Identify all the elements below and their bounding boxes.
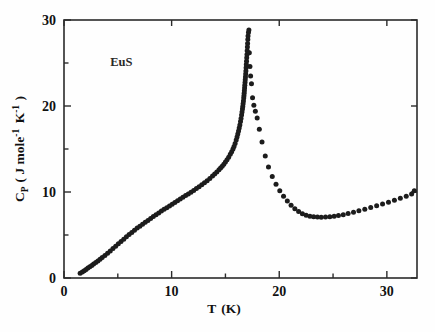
data-point <box>281 194 286 199</box>
y-axis-subscript: P <box>20 186 30 192</box>
data-point <box>270 174 275 179</box>
x-tick-label: 10 <box>165 284 179 299</box>
figure-container: 01020300102030 T(K) CP( J mole-1 K-1 ) E… <box>0 0 435 332</box>
data-point <box>341 212 346 217</box>
data-point <box>380 202 385 207</box>
data-point <box>398 196 403 201</box>
data-point <box>255 116 260 121</box>
sample-label-annotation: EuS <box>110 55 132 69</box>
y-tick-label: 20 <box>42 99 56 114</box>
data-point <box>257 127 262 132</box>
y-axis-title: CP( J mole-1 K-1 ) <box>11 96 30 202</box>
data-point <box>247 50 252 55</box>
data-point <box>374 203 379 208</box>
y-axis-symbol: C <box>12 192 27 202</box>
data-point <box>249 81 254 86</box>
y-axis-exponent-2: -1 <box>11 105 21 113</box>
x-tick-label: 0 <box>61 284 68 299</box>
data-point <box>247 64 252 69</box>
data-point <box>392 198 397 203</box>
data-point <box>332 214 337 219</box>
data-point <box>368 205 373 210</box>
data-point <box>404 194 409 199</box>
svg-text:CP( J mole-1 K-1 ): CP( J mole-1 K-1 ) <box>11 96 30 202</box>
data-point <box>327 214 332 219</box>
data-point <box>412 188 417 193</box>
data-point <box>289 203 294 208</box>
data-point <box>274 182 279 187</box>
data-point <box>248 73 253 78</box>
data-point <box>253 109 258 114</box>
y-axis-mid: K <box>12 112 27 126</box>
data-point <box>266 165 271 170</box>
data-point <box>285 199 290 204</box>
x-axis-unit: (K) <box>221 301 241 316</box>
data-point <box>277 188 282 193</box>
data-point <box>351 210 356 215</box>
plot-annotations: EuS <box>110 55 132 69</box>
data-point <box>362 207 367 212</box>
y-axis-exponent-1: -1 <box>11 128 21 136</box>
data-point <box>386 200 391 205</box>
scatter-plot: 01020300102030 T(K) CP( J mole-1 K-1 ) E… <box>0 0 435 332</box>
data-point <box>346 211 351 216</box>
svg-text:T(K): T(K) <box>207 301 241 316</box>
data-point <box>336 213 341 218</box>
data-point <box>323 215 328 220</box>
axis-tick-labels: 01020300102030 <box>42 13 394 299</box>
data-point <box>263 153 268 158</box>
x-axis-symbol: T <box>207 301 216 316</box>
y-tick-label: 0 <box>49 271 56 286</box>
x-tick-label: 30 <box>380 284 394 299</box>
data-point <box>250 95 255 100</box>
x-axis-title: T(K) <box>207 301 241 316</box>
y-axis-close-paren: ) <box>12 96 27 104</box>
data-point <box>260 140 265 145</box>
x-tick-label: 20 <box>272 284 286 299</box>
data-point <box>251 103 256 108</box>
y-axis-open-paren: ( J mole <box>12 137 27 183</box>
data-point <box>319 215 324 220</box>
data-point <box>356 208 361 213</box>
y-tick-label: 30 <box>42 13 56 28</box>
y-tick-label: 10 <box>42 185 56 200</box>
data-point <box>246 27 251 32</box>
